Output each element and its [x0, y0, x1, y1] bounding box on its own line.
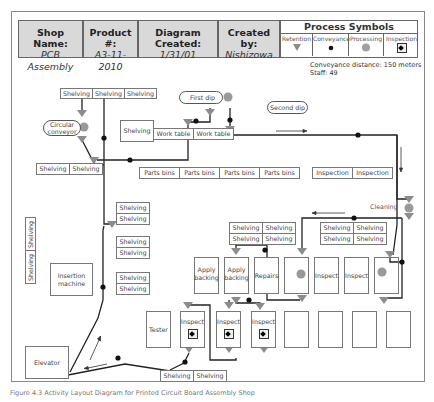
product-label: Product #:	[84, 27, 137, 49]
parts-bins: Parts bins	[219, 167, 260, 179]
first-dip: First dip	[179, 91, 223, 104]
inspect-station: Inspect	[314, 257, 339, 294]
processing-station	[374, 257, 399, 294]
staff-count: Staff: 49	[310, 69, 338, 77]
inspect-station: Inspect	[344, 257, 369, 294]
parts-bins: Parts bins	[179, 167, 220, 179]
inspect-label: Inspect	[181, 318, 204, 326]
legend-label: Inspection	[384, 34, 419, 43]
shelving-unit: Shelving	[160, 370, 194, 382]
shop-name-value: PCB Assembly	[19, 49, 82, 73]
shelving-unit: Shelving	[36, 163, 70, 175]
legend-conveyance: Conveyance	[313, 34, 349, 56]
legend-label: Processing	[349, 34, 383, 43]
inspect-label: Inspect	[217, 318, 240, 326]
diamond-square-icon	[397, 43, 407, 53]
empty-station	[318, 311, 343, 348]
legend-label: Conveyance	[313, 34, 348, 43]
inspection-station: Inspection	[312, 167, 353, 179]
process-symbols-title: Process Symbols	[281, 21, 417, 34]
tester-station: Tester	[146, 311, 171, 348]
apply-backing-station: Apply backing	[194, 257, 219, 294]
product-value: A3-11-2010	[84, 49, 137, 73]
circle-icon	[361, 43, 371, 52]
diagram-created-value: 1/31/01	[139, 49, 217, 61]
diagram-created-cell: Diagram Created: 1/31/01	[138, 20, 218, 58]
shelving-unit: Shelving	[116, 283, 150, 295]
apply-backing-station: Apply backing	[224, 257, 249, 294]
shelving-unit-vertical: Shelving	[25, 217, 36, 251]
inspection-icon	[224, 329, 234, 339]
second-dip: Second dip	[267, 101, 308, 114]
triangle-down-icon	[292, 43, 302, 52]
legend-inspection: Inspection	[384, 34, 419, 56]
legend-processing: Processing	[349, 34, 384, 56]
work-table: Work table	[193, 128, 234, 140]
product-cell: Product #: A3-11-2010	[83, 20, 138, 58]
inspection-icon	[259, 329, 269, 339]
created-by-cell: Created by: Nishizowa	[218, 20, 280, 58]
inspection-icon	[188, 329, 198, 339]
inspection-station: Inspection	[352, 167, 393, 179]
empty-station	[386, 311, 411, 348]
shop-name-cell: Shop Name: PCB Assembly	[18, 20, 83, 58]
circular-conveyor: Circular conveyor	[43, 120, 81, 136]
work-table: Work table	[153, 128, 194, 140]
parts-bins: Parts bins	[139, 167, 180, 179]
elevator: Elevator	[25, 346, 69, 379]
shelving-unit: Shelving	[229, 233, 263, 245]
insertion-machine: Insertion machine	[50, 263, 93, 296]
figure-caption: Figure 4.3 Activity Layout Diagram for P…	[10, 389, 255, 397]
shelving-unit: Shelving	[116, 213, 150, 225]
inspect-label: Inspect	[252, 318, 275, 326]
shelving-unit-vertical: Shelving	[25, 250, 36, 284]
created-by-value: Nishizowa	[219, 49, 279, 61]
inspect-station: Inspect	[251, 311, 276, 348]
shelving-unit: Shelving	[120, 120, 154, 142]
shelving-unit: Shelving	[353, 233, 387, 245]
diagram-created-label: Diagram Created:	[139, 27, 217, 49]
empty-station	[284, 311, 309, 348]
inspect-station: Inspect	[180, 311, 205, 348]
repairs-station: Repairs	[254, 257, 279, 294]
process-symbols-legend: Process Symbols Retention Conveyance Pro…	[280, 20, 418, 58]
shelving-unit: Shelving	[60, 88, 93, 99]
processing-station	[284, 257, 309, 294]
inspect-station: Inspect	[216, 311, 241, 348]
shelving-unit: Shelving	[262, 233, 296, 245]
shelving-unit: Shelving	[320, 233, 354, 245]
shelving-unit: Shelving	[69, 163, 103, 175]
shelving-unit: Shelving	[124, 88, 157, 99]
legend-retention: Retention	[281, 34, 313, 56]
shelving-unit: Shelving	[92, 88, 125, 99]
created-by-label: Created by:	[219, 27, 279, 49]
parts-bins: Parts bins	[259, 167, 300, 179]
conveyance-distance: Conveyance distance: 150 meters	[310, 61, 421, 69]
empty-station	[352, 311, 377, 348]
shop-name-label: Shop Name:	[19, 27, 82, 49]
cleaning-label: Cleaning	[370, 203, 398, 210]
shelving-unit: Shelving	[116, 247, 150, 259]
shelving-unit: Shelving	[193, 370, 227, 382]
legend-label: Retention	[281, 34, 312, 43]
dot-icon	[326, 43, 336, 52]
